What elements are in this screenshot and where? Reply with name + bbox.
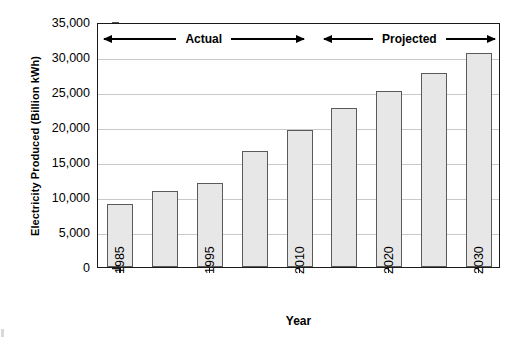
bar [421,73,447,267]
y-axis-tick-label: 20,000 [22,121,97,135]
page-artifact-mark [1,329,4,337]
bar [242,151,268,267]
bar [376,91,402,267]
y-axis-tick-label: 10,000 [22,191,97,205]
y-axis-tick-label: 0 [22,261,97,275]
x-axis-tick-group: 19851995201020202030 [97,268,500,318]
x-axis-tick-label: 1985 [113,246,127,274]
plot-area: ActualProjected [97,23,500,268]
bar-group [98,24,499,267]
x-axis-tick-label: 2020 [382,246,396,274]
bar [466,53,492,267]
x-axis-tick-label: 2030 [472,246,486,274]
y-axis-tick-label: 5,000 [22,226,97,240]
y-axis-tick-label: 15,000 [22,156,97,170]
y-axis-tick-group: 05,00010,00015,00020,00025,00030,00035,0… [22,0,97,342]
bar-chart-figure: Electricity Produced (Billion kWh) 05,00… [0,0,517,342]
x-axis-tick-label: 1995 [203,246,217,274]
bar [152,191,178,267]
y-axis-tick-label: 30,000 [22,51,97,65]
bar [331,108,357,267]
y-axis-tick-label: 25,000 [22,86,97,100]
x-axis-title: Year [97,314,500,328]
y-axis-tick-label: 35,000 [22,16,97,30]
x-axis-tick-label: 2010 [293,246,307,274]
